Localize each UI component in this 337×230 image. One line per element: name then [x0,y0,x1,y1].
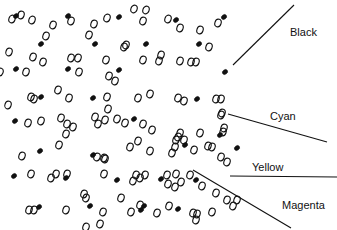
open-dot [139,16,147,25]
dot-pattern-figure: Black Cyan Yellow Magenta [0,0,337,230]
open-dot [146,146,154,155]
open-dot [67,53,75,62]
black-leader-line [233,5,294,65]
halftone-diagram: Black Cyan Yellow Magenta [0,0,337,230]
open-dot [99,207,107,216]
open-dot [4,100,12,109]
open-dot [172,169,180,178]
open-dot [229,201,237,210]
open-dot [57,113,65,122]
dot-field [0,4,241,230]
solid-dot [130,116,137,123]
solid-dot [220,14,227,21]
solid-dot [91,41,98,48]
solid-dot [89,152,96,159]
solid-dot [174,206,181,213]
yellow-leader-line [230,176,337,177]
open-dot [233,195,241,204]
solid-dot [64,66,71,73]
open-dot [62,205,70,214]
open-dot [17,10,25,19]
open-dot [54,85,62,94]
open-dot [165,201,173,210]
solid-dot [11,118,18,125]
open-dot [113,114,121,123]
open-dot [100,169,108,178]
open-dot [148,125,156,134]
open-dot [65,93,73,102]
solid-dot [142,41,149,48]
solid-dot [37,41,44,48]
open-dot [163,170,171,179]
open-dot [74,53,82,62]
open-dot [103,92,111,101]
open-dot [171,182,179,191]
solid-dot [195,41,202,48]
open-dot [90,19,98,28]
open-dot [196,128,204,137]
open-dot [139,119,147,128]
open-dot [134,93,142,102]
open-dot [85,30,93,39]
open-dot [208,142,216,151]
open-dot [22,67,30,76]
open-dot [104,104,112,113]
open-dot [134,136,142,145]
cyan-label: Cyan [270,110,296,122]
open-dot [198,181,206,190]
open-dot [37,116,45,125]
open-dot [117,193,125,202]
open-dot [120,42,128,51]
magenta-leader-line [193,170,291,228]
solid-dot [89,95,96,102]
open-dot [96,219,104,228]
open-dot [126,142,134,151]
open-dot [121,118,129,127]
solid-dot [181,142,188,149]
open-dot [139,55,147,64]
open-dot [142,5,150,14]
open-dot [28,15,36,24]
open-dot [82,193,90,202]
solid-dot [192,177,199,184]
open-dot [205,42,213,51]
open-dot [130,4,138,13]
open-dot [122,40,130,49]
solid-dot [113,177,120,184]
solid-dot [233,145,240,152]
magenta-label: Magenta [282,199,326,211]
open-dot [141,170,149,179]
solid-dot [12,66,19,73]
solid-dot [35,204,42,211]
solid-dot [115,67,122,74]
open-dot [27,169,35,178]
open-dot [204,141,212,150]
open-dot [0,67,4,76]
open-dot [49,20,57,29]
open-dot [101,115,109,124]
solid-dot [115,14,122,21]
open-dot [212,188,220,197]
open-dot [153,208,161,217]
open-dot [196,25,204,34]
open-dot [42,31,50,40]
open-dot [29,52,37,61]
open-dot [176,23,184,32]
open-dot [164,179,172,188]
open-dot [208,207,216,216]
solid-dot [86,203,93,210]
open-dot [52,169,60,178]
solid-dot [216,132,223,139]
open-dot [164,14,172,23]
solid-dot [10,173,17,180]
open-dot [82,222,90,230]
open-dot [18,151,26,160]
open-dot [223,195,231,204]
solid-dot [221,69,228,76]
open-dot [55,140,63,149]
open-dot [102,55,110,64]
open-dot [146,89,154,98]
open-dot [39,57,47,66]
open-dot [75,67,83,76]
solid-dot [36,148,43,155]
